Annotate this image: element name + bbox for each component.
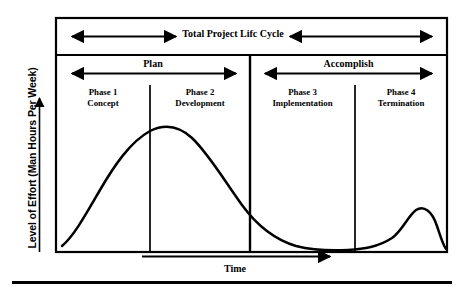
phase-4-name: Termination: [355, 98, 447, 109]
phase-1-name: Concept: [56, 98, 150, 109]
phase-2-name: Development: [150, 98, 250, 109]
phase-3-label: Phase 3 Implementation: [250, 87, 355, 108]
band-label-accomplish: Accomplish: [250, 58, 447, 69]
project-life-cycle-figure: Level of Effort (Man Hours Per Week): [0, 0, 466, 293]
band-label-plan: Plan: [56, 58, 250, 69]
phase-2-number: Phase 2: [150, 87, 250, 98]
phase-4-number: Phase 4: [355, 87, 447, 98]
phase-2-label: Phase 2 Development: [150, 87, 250, 108]
phase-3-name: Implementation: [250, 98, 355, 109]
lifecycle-label: Total Project Lifc Cycle: [181, 28, 285, 39]
level-of-effort-curve: [62, 127, 446, 251]
x-axis-label: Time: [140, 263, 330, 274]
phase-4-label: Phase 4 Termination: [355, 87, 447, 108]
figure-lineart: [0, 0, 466, 293]
phase-1-label: Phase 1 Concept: [56, 87, 150, 108]
phase-3-number: Phase 3: [250, 87, 355, 98]
phase-1-number: Phase 1: [56, 87, 150, 98]
